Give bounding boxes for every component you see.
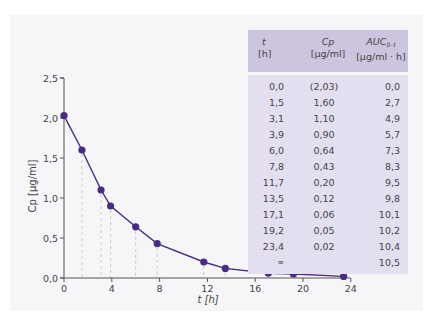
table-header: t [h] Cp [µg/ml] AUC0–t [µg/ml · h]: [248, 30, 408, 72]
header-t-unit: [h]: [258, 48, 284, 60]
data-point: [107, 202, 114, 209]
data-point: [60, 112, 67, 119]
data-point: [78, 146, 85, 153]
cell-cp: 0,02: [284, 239, 356, 255]
data-point: [97, 186, 104, 193]
x-tick-label: 0: [61, 283, 67, 294]
cell-t: 1,5: [248, 95, 284, 111]
cell-t: 0,0: [248, 79, 284, 95]
table-row: 7,80,438,3: [248, 159, 408, 175]
cell-auc: 8,3: [356, 159, 400, 175]
x-tick-label: 20: [297, 283, 309, 294]
table-row: 3,11,104,9: [248, 111, 408, 127]
cell-cp: 0,64: [284, 143, 356, 159]
cell-auc: 4,9: [356, 111, 400, 127]
cell-auc: 0,0: [356, 79, 400, 95]
cell-auc: 9,5: [356, 175, 400, 191]
header-cp-var: Cp: [298, 36, 358, 48]
data-point: [154, 240, 161, 247]
cell-cp: 0,12: [284, 191, 356, 207]
table-row: 11,70,209,5: [248, 175, 408, 191]
cell-cp: 0,90: [284, 127, 356, 143]
table-row: 17,10,0610,1: [248, 207, 408, 223]
y-axis-label: Cp [µg/ml]: [27, 159, 38, 212]
table-body: 0,0(2,03)0,01,51,602,73,11,104,93,90,905…: [248, 75, 408, 274]
cell-t: 11,7: [248, 175, 284, 191]
cell-t: 13,5: [248, 191, 284, 207]
cell-cp: 0,20: [284, 175, 356, 191]
table-row: 13,50,129,8: [248, 191, 408, 207]
cell-auc: 7,3: [356, 143, 400, 159]
y-tick-label: 2,5: [43, 73, 58, 84]
cell-t: 19,2: [248, 223, 284, 239]
cell-cp: 0,43: [284, 159, 356, 175]
x-axis-label: t [h]: [197, 294, 218, 305]
table-row: 1,51,602,7: [248, 95, 408, 111]
x-tick-label: 4: [109, 283, 115, 294]
data-table: t [h] Cp [µg/ml] AUC0–t [µg/ml · h] 0,0(…: [248, 30, 408, 274]
header-auc-unit: [µg/ml · h]: [352, 51, 410, 63]
cell-cp: 1,60: [284, 95, 356, 111]
y-tick-label: 0,5: [43, 233, 58, 244]
y-tick-label: 2,0: [43, 113, 58, 124]
header-auc: AUC0–t [µg/ml · h]: [352, 36, 410, 63]
cell-auc: 10,4: [356, 239, 400, 255]
cell-t: ∞: [248, 255, 284, 271]
x-tick-label: 8: [157, 283, 163, 294]
header-auc-sub: 0–t: [386, 41, 395, 48]
x-tick-label: 16: [249, 283, 261, 294]
data-point: [200, 258, 207, 265]
cell-auc: 10,5: [356, 255, 400, 271]
y-tick-label: 0,0: [43, 273, 58, 284]
cell-t: 6,0: [248, 143, 284, 159]
cell-t: 7,8: [248, 159, 284, 175]
header-cp-unit: [µg/ml]: [298, 48, 358, 60]
cell-t: 3,9: [248, 127, 284, 143]
cell-t: 3,1: [248, 111, 284, 127]
header-auc-var: AUC: [366, 36, 386, 47]
data-point: [132, 223, 139, 230]
cell-auc: 2,7: [356, 95, 400, 111]
cell-cp: 0,05: [284, 223, 356, 239]
cell-auc: 9,8: [356, 191, 400, 207]
cell-cp: 1,10: [284, 111, 356, 127]
cell-cp: (2,03): [284, 79, 356, 95]
x-tick-label: 24: [345, 283, 357, 294]
cell-auc: 10,2: [356, 223, 400, 239]
cell-cp: 0,06: [284, 207, 356, 223]
cell-t: 17,1: [248, 207, 284, 223]
x-tick-label: 12: [201, 283, 213, 294]
table-row: 0,0(2,03)0,0: [248, 79, 408, 95]
table-row: 6,00,647,3: [248, 143, 408, 159]
y-tick-label: 1,0: [43, 193, 58, 204]
header-t-var: t: [258, 36, 284, 48]
cell-auc: 5,7: [356, 127, 400, 143]
data-point: [222, 265, 229, 272]
table-row: 23,40,0210,4: [248, 239, 408, 255]
y-tick-label: 1,5: [43, 153, 58, 164]
header-cp: Cp [µg/ml]: [298, 36, 358, 60]
cell-t: 23,4: [248, 239, 284, 255]
table-row: 3,90,905,7: [248, 127, 408, 143]
cell-auc: 10,1: [356, 207, 400, 223]
header-t: t [h]: [258, 36, 284, 60]
cell-cp: [284, 255, 356, 271]
table-row: 19,20,0510,2: [248, 223, 408, 239]
table-row: ∞10,5: [248, 255, 408, 271]
